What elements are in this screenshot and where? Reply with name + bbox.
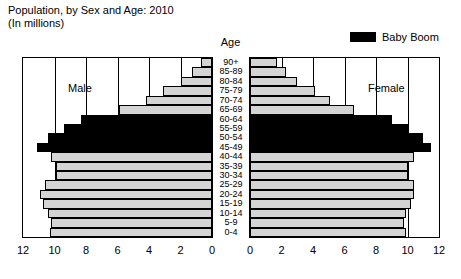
x-axis-female: 024681012 (249, 244, 440, 258)
chart-title: Population, by Sex and Age: 2010 (8, 4, 174, 17)
bar-female-70-74 (250, 96, 330, 105)
xtick-female-10: 10 (396, 244, 420, 256)
xtick-female-2: 2 (270, 244, 294, 256)
bar-female-20-24 (250, 190, 414, 199)
bar-male-30-34 (56, 171, 212, 180)
bar-male-45-49 (37, 143, 212, 152)
bar-male-25-29 (45, 180, 212, 189)
xtick-male-4: 4 (137, 244, 161, 256)
xtick-male-6: 6 (106, 244, 130, 256)
bar-male-60-64 (81, 115, 212, 124)
bar-male-75-79 (163, 86, 212, 95)
bar-female-65-69 (250, 105, 354, 114)
xtick-female-4: 4 (301, 244, 325, 256)
xtick-male-0: 0 (200, 244, 224, 256)
bar-female-5-9 (250, 218, 404, 227)
xtick-male-10: 10 (43, 244, 67, 256)
bar-male-35-39 (56, 162, 212, 171)
bar-male-0-4 (50, 228, 212, 237)
bar-male-40-44 (51, 152, 212, 161)
age-axis-header: Age (0, 36, 461, 48)
bar-male-15-19 (43, 199, 212, 208)
bar-male-5-9 (51, 218, 212, 227)
bar-male-80-84 (181, 77, 213, 86)
bar-female-0-4 (250, 228, 406, 237)
chart-title-block: Population, by Sex and Age: 2010 (In mil… (8, 4, 174, 29)
bar-male-10-14 (48, 209, 212, 218)
male-plot-panel (22, 57, 213, 238)
population-pyramid-chart: Population, by Sex and Age: 2010 (In mil… (0, 0, 461, 279)
bar-female-50-54 (250, 133, 423, 142)
bar-female-55-59 (250, 124, 408, 133)
bar-male-70-74 (146, 96, 212, 105)
bar-male-65-69 (119, 105, 212, 114)
bar-female-40-44 (250, 152, 414, 161)
bar-male-55-59 (64, 124, 212, 133)
bar-female-25-29 (250, 180, 414, 189)
bar-female-75-79 (250, 86, 315, 95)
female-plot-panel (249, 57, 440, 238)
xtick-male-8: 8 (74, 244, 98, 256)
xtick-female-6: 6 (333, 244, 357, 256)
x-axis-male: 121086420 (22, 244, 213, 258)
bar-female-15-19 (250, 199, 411, 208)
bar-male-50-54 (48, 133, 212, 142)
bar-female-45-49 (250, 143, 431, 152)
chart-subtitle: (In millions) (8, 17, 174, 30)
xtick-male-2: 2 (169, 244, 193, 256)
bar-male-20-24 (40, 190, 212, 199)
bar-female-90+ (250, 58, 277, 67)
bar-male-85-89 (192, 67, 212, 76)
age-label-0-4: 0-4 (213, 228, 249, 237)
xtick-female-8: 8 (364, 244, 388, 256)
bar-male-90+ (201, 58, 212, 67)
bar-female-85-89 (250, 67, 286, 76)
xtick-male-12: 12 (11, 244, 35, 256)
series-name-female: Female (368, 82, 405, 94)
bar-female-80-84 (250, 77, 297, 86)
age-group-labels: 90+85-8980-8475-7970-7465-6960-6455-5950… (213, 57, 249, 238)
series-name-male: Male (68, 82, 92, 94)
xtick-female-0: 0 (238, 244, 262, 256)
xtick-female-12: 12 (427, 244, 451, 256)
bar-female-30-34 (250, 171, 408, 180)
bar-female-60-64 (250, 115, 392, 124)
bar-female-35-39 (250, 162, 408, 171)
bar-female-10-14 (250, 209, 406, 218)
